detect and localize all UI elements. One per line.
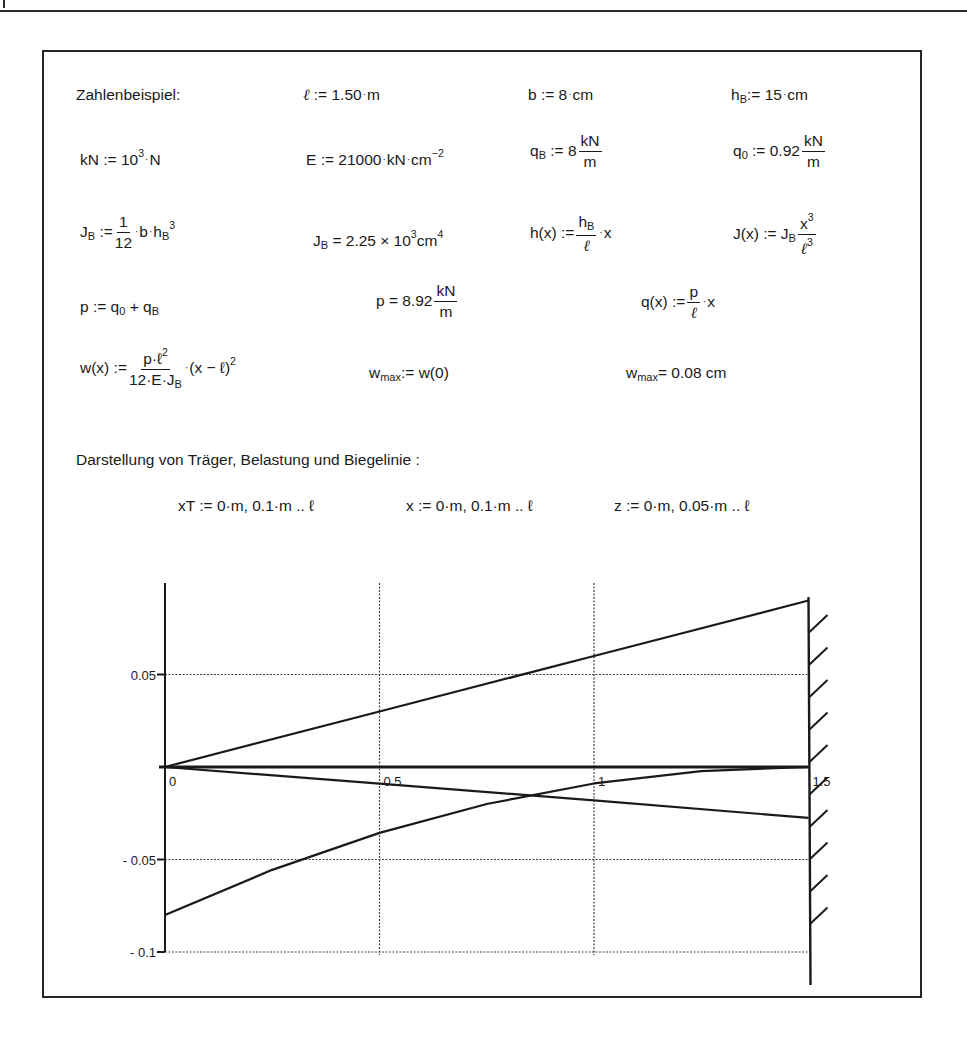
x-tick-label: 0.5 <box>384 774 402 789</box>
wall-hatch <box>810 843 828 860</box>
wall-hatch <box>810 908 828 925</box>
chart-tick-labels: 0.05- 0.05- 0.100.511.5 <box>123 668 831 961</box>
chart-grid <box>165 583 809 955</box>
wall-hatch <box>810 875 828 892</box>
wall-hatch <box>810 745 828 762</box>
series-line <box>165 767 809 915</box>
wall-hatch <box>810 713 828 730</box>
y-tick-label: 0.05 <box>131 668 156 683</box>
y-tick-label: - 0.05 <box>123 853 156 868</box>
beam-deflection-chart: 0.05- 0.05- 0.100.511.5 <box>0 0 967 1037</box>
x-tick-label: 0 <box>169 774 176 789</box>
wall-hatch <box>810 615 828 632</box>
wall-line <box>809 597 811 985</box>
x-tick-label: 1.5 <box>813 774 831 789</box>
wall-hatch <box>810 648 828 665</box>
series-line <box>165 601 809 768</box>
series-line <box>165 767 809 818</box>
y-tick-label: - 0.1 <box>130 945 156 960</box>
wall-hatch <box>810 810 828 827</box>
wall-hatch <box>810 680 828 697</box>
fixed-support-icon <box>809 597 828 985</box>
chart-series <box>165 601 809 916</box>
